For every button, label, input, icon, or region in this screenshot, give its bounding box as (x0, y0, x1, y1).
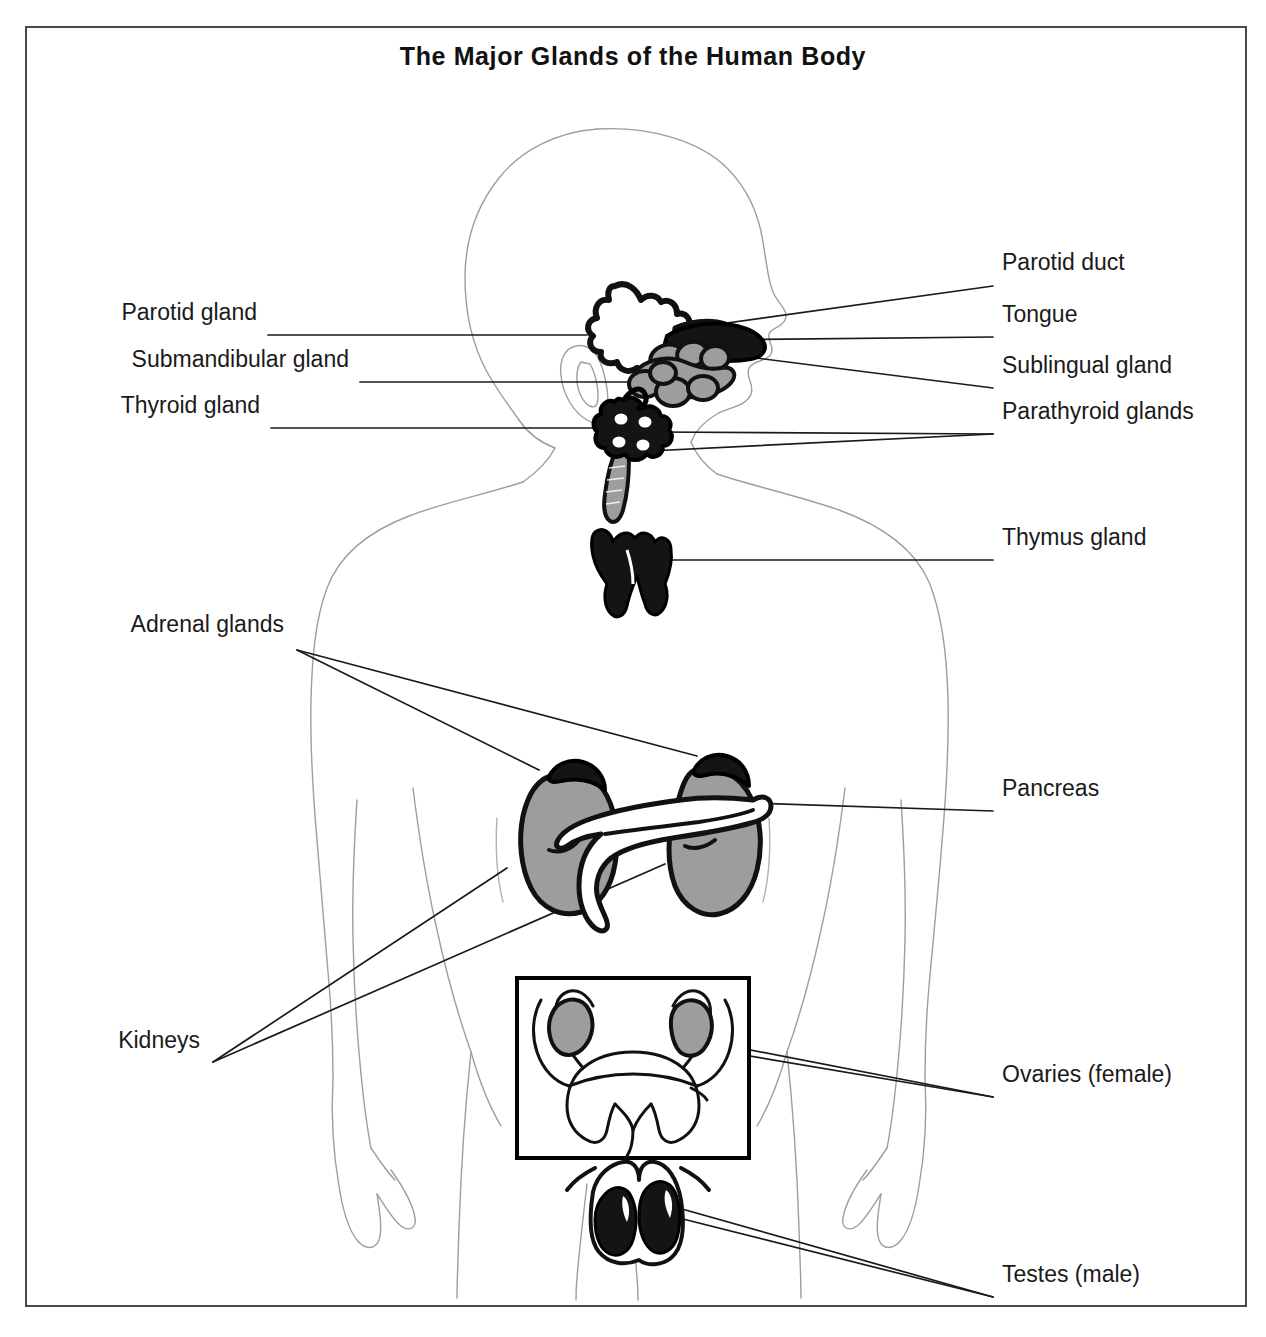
organ-group-neck (594, 389, 672, 522)
label-pancreas[interactable]: Pancreas (1002, 777, 1099, 800)
female-reproductive-inset (517, 978, 749, 1158)
label-submandibular-gland[interactable]: Submandibular gland (0, 348, 349, 371)
leader-testis-right (643, 1198, 993, 1297)
diagram-page: The Major Glands of the Human Body (0, 0, 1266, 1337)
ovary-left-organ (671, 1000, 712, 1055)
label-parotid-duct[interactable]: Parotid duct (1002, 251, 1125, 274)
label-adrenal-glands[interactable]: Adrenal glands (0, 613, 284, 636)
testis-right-organ (595, 1188, 636, 1256)
label-testes-male[interactable]: Testes (male) (1002, 1263, 1140, 1286)
leader-parotid-duct (691, 286, 993, 328)
label-parotid-gland[interactable]: Parotid gland (0, 301, 257, 324)
testis-left-organ (639, 1182, 680, 1254)
label-ovaries-female[interactable]: Ovaries (female) (1002, 1063, 1172, 1086)
ovary-right-organ (549, 1000, 592, 1055)
label-kidneys[interactable]: Kidneys (0, 1029, 200, 1052)
label-parathyroid-glands[interactable]: Parathyroid glands (1002, 400, 1194, 423)
organ-group-testes (567, 1162, 709, 1265)
leader-parathyroid-b (629, 434, 993, 452)
leader-testis-left (663, 1214, 993, 1297)
thyroid-gland-organ (594, 398, 672, 460)
organ-group-head (588, 284, 765, 406)
label-thyroid-gland[interactable]: Thyroid gland (0, 394, 260, 417)
label-sublingual-gland[interactable]: Sublingual gland (1002, 354, 1172, 377)
leader-kidney-left (213, 868, 507, 1062)
leader-adrenal-left (297, 650, 697, 756)
organ-group-abdomen (521, 755, 771, 931)
anatomy-figure (27, 28, 1245, 1305)
label-tongue[interactable]: Tongue (1002, 303, 1077, 326)
leader-adrenal-right (297, 650, 539, 770)
label-thymus-gland[interactable]: Thymus gland (1002, 526, 1146, 549)
leader-parathyroid-a (655, 432, 993, 434)
